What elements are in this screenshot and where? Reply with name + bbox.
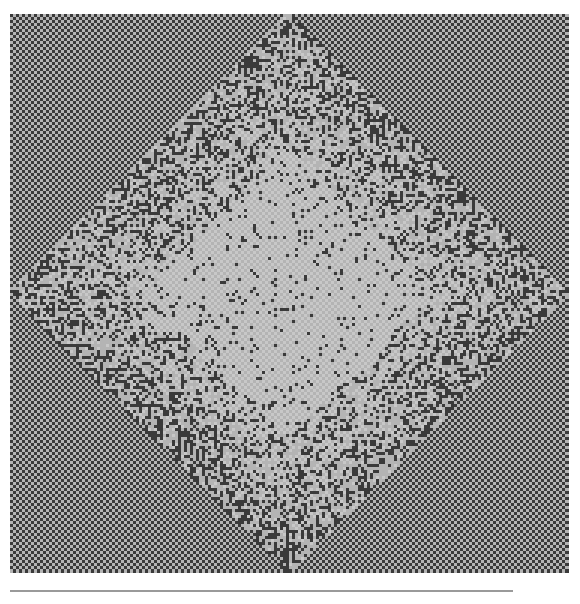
automaton-canvas bbox=[10, 14, 569, 573]
automaton-figure bbox=[10, 14, 569, 573]
horizontal-rule bbox=[10, 590, 513, 592]
